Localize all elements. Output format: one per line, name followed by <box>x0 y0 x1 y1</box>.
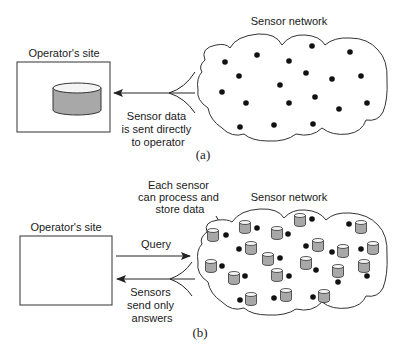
sensor-dot <box>346 221 352 227</box>
sensor-dot <box>309 216 315 222</box>
sensor-dot <box>364 273 370 279</box>
storage-cylinder-icon <box>313 239 324 252</box>
storage-cylinder-icon <box>263 253 274 266</box>
sensor-dot <box>303 70 309 76</box>
sensor-dot <box>336 106 342 112</box>
storage-cylinder-icon <box>359 260 370 273</box>
sensor-network-diagram: Operator's site Sensor data is sent dire… <box>0 0 407 355</box>
sensor-dot <box>222 59 228 65</box>
panel-b: Each sensor can process and store data O… <box>20 179 387 340</box>
storage-cylinder-icon <box>272 227 283 240</box>
sensor-dot <box>286 273 292 279</box>
sensor-dot <box>310 121 316 127</box>
sensor-dot <box>236 246 242 252</box>
sensor-dot <box>236 73 242 79</box>
storage-cylinder-icon <box>206 260 217 273</box>
answers-label-line2: send only <box>127 299 175 311</box>
storage-cylinder-icon <box>281 289 292 302</box>
panel-a: Operator's site Sensor data is sent dire… <box>17 15 387 162</box>
storage-cylinder-icon <box>338 245 349 258</box>
callout-line1: Each sensor <box>148 179 209 191</box>
query-label: Query <box>141 238 171 250</box>
sensor-network-cloud-a <box>198 34 388 141</box>
storage-cylinder-icon <box>229 272 240 285</box>
sensor-dot <box>303 243 309 249</box>
storage-cylinder-icon <box>246 293 257 306</box>
operator-site-box-b <box>20 236 112 305</box>
storage-cylinder-icon <box>295 214 306 227</box>
sensor-dot <box>223 232 229 238</box>
sensor-dot <box>277 255 283 261</box>
sensor-dot <box>286 58 292 64</box>
sensor-dot <box>243 100 249 106</box>
callout-line2: can process and <box>138 191 219 203</box>
storage-cylinder-icon <box>272 269 283 282</box>
sensor-dot <box>285 231 291 237</box>
sensor-dot <box>358 73 364 79</box>
storage-cylinder-icon <box>240 221 251 234</box>
operator-site-label-a: Operator's site <box>28 47 99 59</box>
storage-cylinder-icon <box>301 257 312 270</box>
diagram-canvas: Operator's site Sensor data is sent dire… <box>0 0 407 355</box>
caption-b: (b) <box>192 325 207 340</box>
sensor-dot <box>277 82 283 88</box>
arrow-label-a-line1: Sensor data <box>127 110 187 122</box>
arrow-fan-b <box>170 262 195 296</box>
arrow-label-a-line2: is sent directly <box>122 123 192 135</box>
arrow-label-a-line3: to operator <box>131 136 185 148</box>
sensor-dot <box>364 100 370 106</box>
sensor-dot <box>219 89 225 95</box>
sensor-network-label-a: Sensor network <box>251 15 328 27</box>
answers-label-line3: answers <box>132 312 173 324</box>
storage-cylinder-icon <box>246 242 257 255</box>
database-icon <box>53 83 101 115</box>
sensor-dot <box>254 52 260 58</box>
sensor-dot <box>237 124 243 130</box>
storage-cylinder-icon <box>208 229 219 242</box>
storage-cylinder-icon <box>333 265 344 278</box>
caption-a: (a) <box>196 147 210 162</box>
sensor-dot <box>329 249 335 255</box>
storage-cylinder-icon <box>368 242 379 255</box>
sensor-dot <box>242 273 248 279</box>
sensor-dot <box>329 76 335 82</box>
callout-line3: store data <box>156 203 206 215</box>
storage-cylinder-icon <box>356 221 367 234</box>
sensor-dot <box>271 122 277 128</box>
sensor-dot <box>310 294 316 300</box>
sensor-dot <box>219 263 225 269</box>
sensor-dot <box>335 279 341 285</box>
callout-label: Each sensor can process and store data <box>138 179 222 215</box>
arrow-label-a: Sensor data is sent directly to operator <box>122 110 195 148</box>
storage-cylinder-icon <box>319 290 330 303</box>
sensor-dot <box>313 267 319 273</box>
sensor-dot <box>237 297 243 303</box>
sensor-dot <box>286 100 292 106</box>
sensor-dot <box>312 94 318 100</box>
sensor-dot <box>309 43 315 49</box>
arrow-fan-a <box>169 72 195 113</box>
sensor-dot <box>271 295 277 301</box>
answers-label: Sensors send only answers <box>127 286 177 324</box>
sensor-dot <box>347 49 353 55</box>
operator-site-label-b: Operator's site <box>30 221 101 233</box>
answers-label-line1: Sensors <box>130 286 171 298</box>
sensor-dot <box>254 225 260 231</box>
sensor-dot <box>358 246 364 252</box>
sensor-network-label-b: Sensor network <box>251 191 328 203</box>
